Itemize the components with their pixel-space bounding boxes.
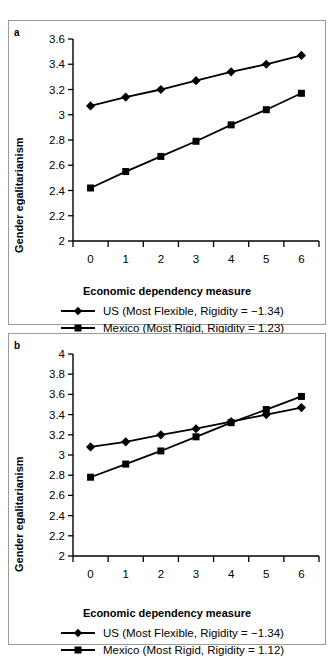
- y-axis-tick-label: 2.8: [49, 134, 65, 146]
- data-point-square: [263, 406, 270, 413]
- x-axis-tick-label: 3: [193, 253, 199, 265]
- x-axis-tick-label: 2: [158, 253, 164, 265]
- y-axis-tick-label: 3.2: [49, 84, 65, 96]
- x-axis-tick-label: 5: [263, 253, 269, 265]
- data-point-diamond: [121, 92, 130, 101]
- y-axis-tick-label: 3.4: [49, 58, 66, 70]
- legend-b: US (Most Flexible, Rigidity = −1.34) Mex…: [9, 624, 325, 658]
- y-axis-tick-label: 3.8: [49, 368, 65, 380]
- data-point-square: [122, 461, 129, 468]
- x-axis-tick-label: 0: [87, 568, 93, 580]
- plot-area-a: 22.22.42.62.833.23.43.60123456: [27, 27, 325, 277]
- legend-marker-diamond-icon: [61, 305, 95, 317]
- y-axis-label-b: Gender egalitarianism: [13, 372, 25, 572]
- x-axis-tick-label: 2: [158, 568, 164, 580]
- legend-marker-square-icon: [61, 644, 95, 656]
- data-point-diamond: [191, 76, 200, 85]
- legend-item-label: Mexico (Most Rigid, Rigidity = 1.23): [103, 322, 284, 334]
- x-axis-tick-label: 3: [193, 568, 199, 580]
- legend-item: Mexico (Most Rigid, Rigidity = 1.12): [9, 641, 325, 658]
- x-axis-tick-label: 4: [228, 253, 235, 265]
- y-axis-tick-label: 2.4: [49, 185, 66, 197]
- y-axis-tick-label: 2.2: [49, 530, 65, 542]
- data-point-square: [87, 184, 94, 191]
- y-axis-label-a: Gender egalitarianism: [13, 53, 25, 253]
- data-point-diamond: [156, 85, 165, 94]
- y-axis-tick-label: 3.2: [49, 429, 65, 441]
- data-point-diamond: [156, 430, 165, 439]
- panel-label-a: a: [14, 28, 20, 38]
- x-axis-label-b: Economic dependency measure: [9, 607, 325, 619]
- legend-a: US (Most Flexible, Rigidity = −1.34) Mex…: [9, 302, 325, 336]
- x-axis-tick-label: 6: [298, 568, 304, 580]
- data-point-square: [298, 90, 305, 97]
- data-point-diamond: [227, 67, 236, 76]
- x-axis-tick-label: 0: [87, 253, 93, 265]
- data-point-diamond: [86, 442, 95, 451]
- legend-marker-square-icon: [61, 322, 95, 334]
- y-axis-tick-label: 2: [59, 235, 65, 247]
- data-point-diamond: [297, 403, 306, 412]
- data-point-diamond: [86, 101, 95, 110]
- data-point-square: [157, 447, 164, 454]
- y-axis-tick-label: 2.2: [49, 210, 65, 222]
- plot-svg-b: 22.22.42.62.833.23.43.63.840123456: [27, 342, 325, 592]
- data-point-square: [298, 393, 305, 400]
- y-axis-tick-label: 3.4: [49, 409, 66, 421]
- x-axis-tick-label: 5: [263, 568, 269, 580]
- legend-item-label: Mexico (Most Rigid, Rigidity = 1.12): [103, 644, 284, 656]
- data-point-square: [122, 168, 129, 175]
- plot-svg-a: 22.22.42.62.833.23.43.60123456: [27, 27, 325, 277]
- legend-item-label: US (Most Flexible, Rigidity = −1.34): [103, 305, 284, 317]
- y-axis-tick-label: 3.6: [49, 388, 65, 400]
- y-axis-tick-label: 2.4: [49, 510, 66, 522]
- panel-label-b: b: [14, 341, 20, 351]
- legend-item: US (Most Flexible, Rigidity = −1.34): [9, 302, 325, 319]
- data-point-diamond: [191, 424, 200, 433]
- y-axis-tick-label: 2.6: [49, 489, 65, 501]
- data-point-square: [193, 138, 200, 145]
- data-point-square: [193, 433, 200, 440]
- data-point-square: [157, 153, 164, 160]
- x-axis-label-a: Economic dependency measure: [9, 285, 325, 297]
- chart-panel-a: a Gender egalitarianism 22.22.42.62.833.…: [8, 20, 326, 325]
- x-axis-tick-label: 4: [228, 568, 235, 580]
- x-axis-tick-label: 1: [123, 253, 129, 265]
- plot-area-b: 22.22.42.62.833.23.43.63.840123456: [27, 342, 325, 592]
- y-axis-tick-label: 2: [59, 550, 65, 562]
- chart-panel-b: b Gender egalitarianism 22.22.42.62.833.…: [8, 333, 326, 645]
- x-axis-tick-label: 6: [298, 253, 304, 265]
- x-axis-tick-label: 1: [123, 568, 129, 580]
- data-point-diamond: [121, 437, 130, 446]
- y-axis-tick-label: 3: [59, 109, 65, 121]
- y-axis-tick-label: 2.8: [49, 469, 65, 481]
- legend-item-label: US (Most Flexible, Rigidity = −1.34): [103, 627, 284, 639]
- data-point-diamond: [297, 51, 306, 60]
- data-point-square: [228, 121, 235, 128]
- data-point-square: [87, 474, 94, 481]
- legend-item: US (Most Flexible, Rigidity = −1.34): [9, 624, 325, 641]
- y-axis-tick-label: 3: [59, 449, 65, 461]
- y-axis-tick-label: 2.6: [49, 159, 65, 171]
- data-point-square: [228, 419, 235, 426]
- y-axis-tick-label: 4: [59, 348, 66, 360]
- data-point-square: [263, 106, 270, 113]
- data-point-diamond: [262, 60, 271, 69]
- y-axis-tick-label: 3.6: [49, 33, 65, 45]
- legend-marker-diamond-icon: [61, 627, 95, 639]
